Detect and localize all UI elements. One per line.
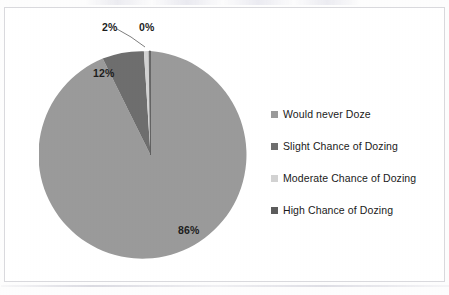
legend-swatch-icon bbox=[271, 111, 278, 118]
scan-artifact bbox=[85, 0, 360, 5]
legend-label: Would never Doze bbox=[283, 108, 371, 120]
legend-item-slight-chance-of-dozing[interactable]: Slight Chance of Dozing bbox=[271, 130, 446, 162]
pie-label-high-chance-of-dozing: 0% bbox=[139, 21, 155, 33]
legend-label: High Chance of Dozing bbox=[283, 204, 393, 216]
chart-screenshot: 86% 12% 2% 0% Would never Doze Slight Ch… bbox=[0, 0, 449, 295]
legend-item-high-chance-of-dozing[interactable]: High Chance of Dozing bbox=[271, 194, 446, 226]
pie-label-would-never-doze: 86% bbox=[178, 224, 200, 236]
legend-swatch-icon bbox=[271, 207, 278, 214]
pie-label-moderate-chance-of-dozing: 2% bbox=[102, 21, 118, 33]
chart-legend: Would never Doze Slight Chance of Dozing… bbox=[271, 98, 446, 226]
legend-swatch-icon bbox=[271, 175, 278, 182]
legend-label: Slight Chance of Dozing bbox=[283, 140, 398, 152]
pie-label-slight-chance-of-dozing: 12% bbox=[93, 67, 115, 79]
plot-area: 86% 12% 2% 0% Would never Doze Slight Ch… bbox=[5, 8, 444, 281]
legend-item-would-never-doze[interactable]: Would never Doze bbox=[271, 98, 446, 130]
legend-swatch-icon bbox=[271, 143, 278, 150]
legend-item-moderate-chance-of-dozing[interactable]: Moderate Chance of Dozing bbox=[271, 162, 446, 194]
legend-label: Moderate Chance of Dozing bbox=[283, 172, 416, 184]
pie-chart bbox=[39, 27, 265, 269]
chart-frame: 86% 12% 2% 0% Would never Doze Slight Ch… bbox=[4, 7, 445, 282]
